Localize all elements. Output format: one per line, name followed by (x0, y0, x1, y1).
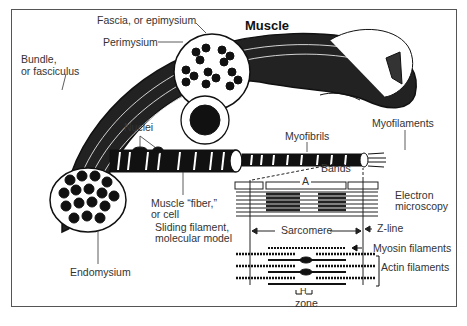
label-perimysium: Perimysium (103, 37, 158, 49)
label-myosin: Myosin filaments (373, 243, 451, 255)
label-actin: Actin filaments (381, 262, 449, 274)
label-sliding-2: molecular model (155, 233, 232, 245)
sliding-filament-model (236, 245, 379, 294)
label-bundle-1: Bundle, (21, 54, 57, 66)
label-nuclei: Nuclei (124, 122, 153, 134)
label-fiber-2: or cell (151, 209, 179, 221)
label-sarcomere: Sarcomere (281, 225, 332, 237)
label-bands: Bands (321, 163, 351, 175)
label-endomysium: Endomysium (70, 267, 131, 279)
label-zline: Z-line (377, 223, 403, 235)
label-fascia: Fascia, or epimysium (97, 15, 196, 27)
label-a-band: A (300, 176, 311, 188)
label-h: H (300, 286, 307, 298)
label-bundle-2: or fasciculus (21, 66, 79, 78)
muscle-cross-section (174, 34, 250, 144)
fasciculus-cross-section (50, 168, 126, 232)
label-electron-2: microscopy (395, 201, 448, 213)
label-myofibrils: Myofibrils (285, 131, 329, 143)
label-myofilaments: Myofilaments (372, 118, 434, 130)
figure-title: Muscle (245, 18, 289, 33)
label-zone: zone (295, 298, 318, 310)
